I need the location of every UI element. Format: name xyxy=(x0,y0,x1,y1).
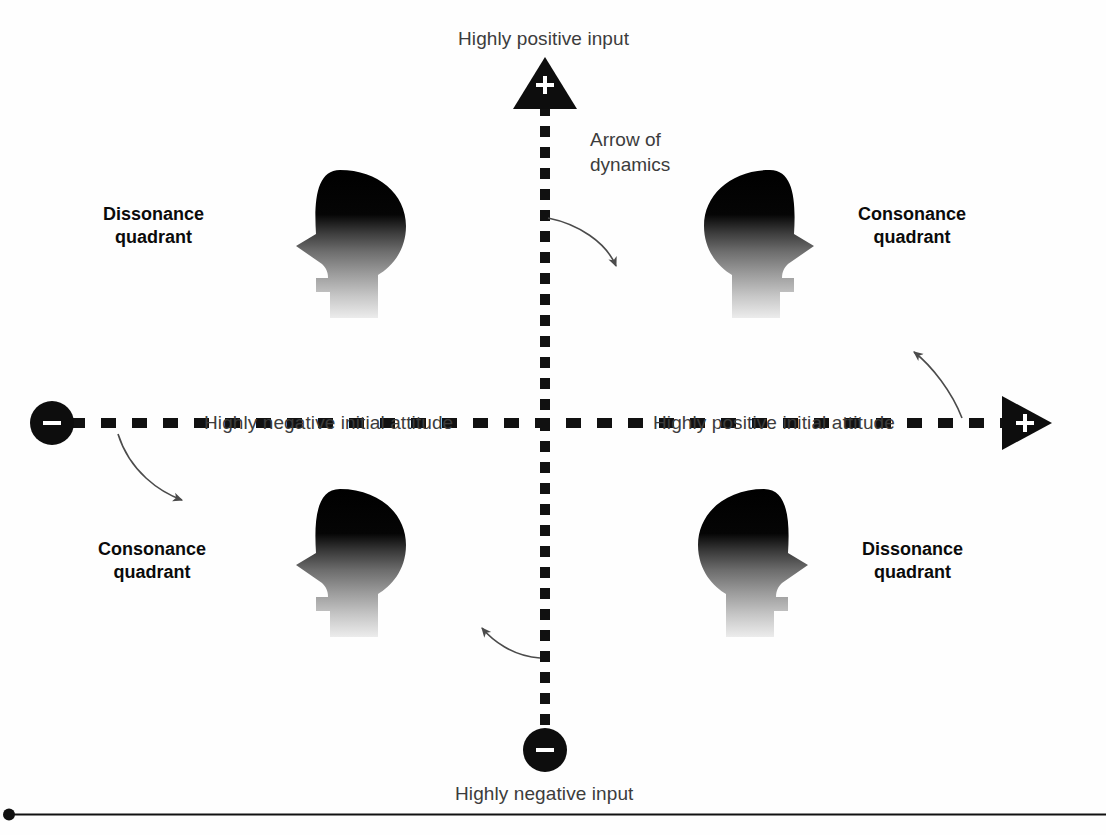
curved-arrow-top-center xyxy=(548,218,616,266)
curved-arrow-bottom-center xyxy=(482,628,540,658)
bullet-dot-icon xyxy=(3,809,15,821)
footer-rule xyxy=(0,808,1106,822)
diagram-canvas: Highly positive input Highly negative in… xyxy=(0,0,1106,835)
curved-arrow-right xyxy=(914,352,962,418)
curved-dynamics-arrows xyxy=(0,0,1106,835)
curved-arrow-left xyxy=(118,434,182,500)
